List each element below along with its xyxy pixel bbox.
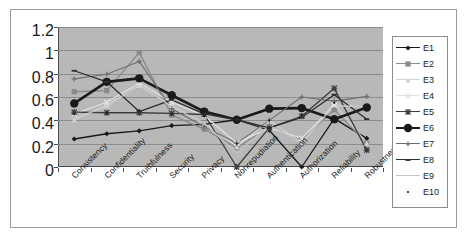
legend-symbol-e5-icon bbox=[395, 105, 421, 119]
legend-symbol-e1-icon bbox=[395, 41, 421, 55]
legend-marker bbox=[401, 169, 415, 183]
y-axis-tick-label: 0 bbox=[24, 162, 54, 180]
y-axis-tick-label: 0.4 bbox=[24, 115, 54, 133]
legend-label: E8 bbox=[421, 155, 434, 165]
y-axis-tick-label: 1 bbox=[24, 45, 54, 63]
data-point-marker bbox=[405, 45, 410, 50]
legend-symbol-e10-icon bbox=[395, 185, 421, 199]
legend-marker bbox=[401, 89, 415, 103]
legend-item-e4[interactable]: E4 bbox=[395, 88, 445, 104]
legend-marker bbox=[401, 121, 415, 135]
data-point-marker bbox=[404, 124, 412, 132]
legend-label: E7 bbox=[421, 139, 434, 149]
legend-marker bbox=[401, 105, 415, 119]
y-axis-tick-label: 0.8 bbox=[24, 69, 54, 87]
data-point-marker bbox=[407, 191, 409, 193]
y-axis-tick-label: 0.2 bbox=[24, 139, 54, 157]
legend-item-e6[interactable]: E6 bbox=[395, 120, 445, 136]
legend-symbol-e2-icon bbox=[395, 57, 421, 71]
data-point-marker bbox=[405, 109, 411, 115]
data-point-marker bbox=[405, 77, 410, 82]
legend-item-e10[interactable]: E10 bbox=[395, 184, 445, 200]
legend-label: E6 bbox=[421, 123, 434, 133]
legend-symbol-e7-icon bbox=[395, 137, 421, 151]
legend-item-e8[interactable]: E8 bbox=[395, 152, 445, 168]
legend-symbol-e4-icon bbox=[395, 89, 421, 103]
x-axis-label: Privacy bbox=[200, 154, 226, 180]
x-axis-label: Security bbox=[168, 152, 196, 180]
chart-container: ConsistencyConfidentialityTruthfulnessSe… bbox=[0, 0, 469, 252]
legend-label: E1 bbox=[421, 43, 434, 53]
legend-marker bbox=[401, 57, 415, 71]
legend-label: E5 bbox=[421, 107, 434, 117]
legend-symbol-e8-icon bbox=[395, 153, 421, 167]
data-point-marker bbox=[405, 141, 410, 146]
legend-label: E4 bbox=[421, 91, 434, 101]
legend-marker bbox=[401, 73, 415, 87]
x-axis-label: Reliability bbox=[330, 148, 362, 180]
legend-item-e9[interactable]: E9 bbox=[395, 168, 445, 184]
legend-label: E10 bbox=[421, 187, 439, 197]
legend-item-e1[interactable]: E1 bbox=[395, 40, 445, 56]
y-axis-tick-label: 1.2 bbox=[24, 22, 54, 40]
chart-legend: E1E2E3E4E5E6E7E8E9E10 bbox=[392, 36, 448, 208]
legend-label: E2 bbox=[421, 59, 434, 69]
legend-marker bbox=[401, 137, 415, 151]
data-point-marker bbox=[405, 61, 410, 66]
data-point-marker bbox=[405, 159, 410, 161]
legend-symbol-e6-icon bbox=[395, 121, 421, 135]
legend-label: E9 bbox=[421, 171, 434, 181]
legend-item-e3[interactable]: E3 bbox=[395, 72, 445, 88]
y-axis-tick-label: 0.6 bbox=[24, 92, 54, 110]
legend-symbol-e9-icon bbox=[395, 169, 421, 183]
legend-item-e7[interactable]: E7 bbox=[395, 136, 445, 152]
legend-label: E3 bbox=[421, 75, 434, 85]
legend-marker bbox=[401, 41, 415, 55]
legend-item-e5[interactable]: E5 bbox=[395, 104, 445, 120]
data-point-marker bbox=[405, 93, 410, 98]
legend-item-e2[interactable]: E2 bbox=[395, 56, 445, 72]
legend-marker bbox=[401, 153, 415, 167]
legend-marker bbox=[401, 185, 415, 199]
legend-symbol-e3-icon bbox=[395, 73, 421, 87]
